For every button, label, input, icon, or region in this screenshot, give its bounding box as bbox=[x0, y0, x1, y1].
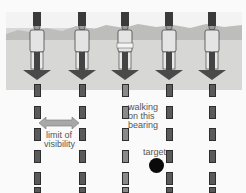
path-dash bbox=[166, 106, 173, 119]
path-dash bbox=[209, 128, 216, 141]
path-dash bbox=[122, 172, 129, 185]
map-sheet bbox=[117, 43, 133, 48]
path-dash bbox=[166, 187, 173, 193]
bearing-pole bbox=[33, 12, 41, 26]
target-marker bbox=[149, 158, 164, 173]
path-dash bbox=[166, 172, 173, 185]
target-label: target bbox=[143, 148, 166, 157]
limit-of-visibility-label: limit of visibility bbox=[44, 131, 74, 149]
path-dash bbox=[34, 128, 41, 141]
path-dash bbox=[166, 150, 173, 163]
direction-arrowhead-icon bbox=[23, 70, 51, 80]
walking-line3: bearing bbox=[128, 121, 158, 130]
bearing-pole bbox=[78, 12, 86, 26]
path-dash bbox=[209, 150, 216, 163]
path-dash bbox=[122, 187, 129, 193]
bearing-pole bbox=[165, 12, 173, 26]
direction-arrowhead-icon bbox=[68, 70, 96, 80]
path-dash bbox=[122, 84, 129, 97]
path-dash bbox=[34, 187, 41, 193]
searcher-figure bbox=[205, 24, 219, 70]
double-arrow-icon bbox=[39, 117, 79, 129]
path-dash bbox=[209, 106, 216, 119]
path-dash bbox=[34, 172, 41, 185]
path-dash bbox=[79, 128, 86, 141]
path-dash bbox=[209, 172, 216, 185]
path-dash bbox=[79, 172, 86, 185]
searcher-figure bbox=[162, 24, 176, 70]
path-dash bbox=[209, 84, 216, 97]
path-dash bbox=[166, 84, 173, 97]
path-dash bbox=[122, 150, 129, 163]
direction-arrowhead-icon bbox=[155, 70, 183, 80]
bearing-pole bbox=[121, 12, 129, 26]
path-dash bbox=[79, 187, 86, 193]
path-dash bbox=[34, 84, 41, 97]
searcher-figure bbox=[117, 24, 133, 70]
searcher-figure bbox=[30, 24, 44, 70]
search-pattern-diagram: limit of visibility walking on this bear… bbox=[0, 0, 246, 193]
searcher-figure bbox=[75, 24, 89, 70]
path-dash bbox=[79, 84, 86, 97]
direction-arrowhead-icon bbox=[111, 70, 139, 80]
walking-bearing-label: walking on this bearing bbox=[128, 103, 158, 130]
path-dash bbox=[166, 128, 173, 141]
bearing-pole bbox=[208, 12, 216, 26]
direction-arrowhead-icon bbox=[198, 70, 226, 80]
path-dash bbox=[34, 150, 41, 163]
limit-line2: visibility bbox=[44, 140, 74, 149]
path-dash bbox=[79, 150, 86, 163]
path-dash bbox=[209, 187, 216, 193]
path-dash bbox=[79, 106, 86, 119]
